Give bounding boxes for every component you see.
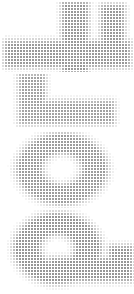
halftone-dot xyxy=(31,168,33,170)
halftone-dot xyxy=(46,282,48,284)
halftone-dot xyxy=(86,68,88,70)
halftone-dot xyxy=(11,53,13,55)
halftone-dot xyxy=(107,56,109,58)
halftone-dot xyxy=(37,122,39,124)
halftone-dot xyxy=(91,198,93,200)
halftone-dot xyxy=(85,180,87,182)
halftone-dot xyxy=(73,110,75,112)
halftone-dot xyxy=(112,119,114,121)
halftone-dot xyxy=(119,11,121,13)
halftone-dot xyxy=(43,159,45,161)
halftone-dot xyxy=(133,255,134,257)
halftone-dot xyxy=(89,35,91,37)
halftone-dot xyxy=(122,38,124,40)
halftone-dot xyxy=(49,204,51,206)
halftone-dot xyxy=(55,195,57,197)
halftone-dot xyxy=(52,201,54,203)
halftone-dot xyxy=(124,240,126,242)
halftone-dot xyxy=(34,213,36,215)
halftone-dot xyxy=(112,113,114,115)
halftone-dot xyxy=(70,258,72,260)
halftone-dot xyxy=(34,222,36,224)
halftone-dot xyxy=(64,219,66,221)
halftone-dot xyxy=(124,252,126,254)
halftone-dot xyxy=(34,249,36,251)
halftone-dot xyxy=(88,201,90,203)
halftone-dot xyxy=(40,204,42,206)
halftone-dot xyxy=(22,159,24,161)
halftone-dot xyxy=(68,11,70,13)
halftone-dot xyxy=(82,276,84,278)
halftone-dot xyxy=(13,168,15,170)
halftone-dot xyxy=(76,267,78,269)
halftone-dot xyxy=(79,104,81,106)
halftone-dot xyxy=(61,101,63,103)
halftone-dot xyxy=(104,32,106,34)
halftone-dot xyxy=(89,5,91,7)
halftone-dot xyxy=(29,68,31,70)
halftone-dot xyxy=(125,2,127,4)
halftone-dot xyxy=(28,246,30,248)
halftone-dot xyxy=(73,231,75,233)
halftone-dot xyxy=(61,276,63,278)
halftone-dot xyxy=(13,240,15,242)
halftone-dot xyxy=(73,180,75,182)
halftone-dot xyxy=(16,171,18,173)
halftone-dot xyxy=(55,116,57,118)
halftone-dot xyxy=(106,110,108,112)
halftone-dot xyxy=(91,147,93,149)
halftone-dot xyxy=(70,186,72,188)
halftone-dot xyxy=(43,153,45,155)
halftone-dot xyxy=(55,285,57,287)
halftone-dot xyxy=(16,165,18,167)
halftone-dot xyxy=(106,237,108,239)
halftone-dot xyxy=(28,255,30,257)
halftone-dot xyxy=(73,282,75,284)
halftone-dot xyxy=(29,65,31,67)
halftone-dot xyxy=(61,273,63,275)
halftone-dot xyxy=(25,95,27,97)
halftone-dot xyxy=(41,65,43,67)
halftone-dot xyxy=(113,53,115,55)
halftone-dot xyxy=(16,125,18,127)
halftone-dot xyxy=(11,59,13,61)
halftone-dot xyxy=(83,14,85,16)
halftone-dot xyxy=(106,189,108,191)
halftone-dot xyxy=(19,240,21,242)
halftone-dot xyxy=(112,252,114,254)
halftone-dot xyxy=(40,279,42,281)
halftone-dot xyxy=(86,26,88,28)
halftone-dot xyxy=(16,159,18,161)
halftone-dot xyxy=(16,228,18,230)
halftone-dot xyxy=(92,68,94,70)
halftone-dot xyxy=(25,171,27,173)
halftone-dot xyxy=(82,138,84,140)
halftone-dot xyxy=(70,249,72,251)
halftone-dot xyxy=(10,249,12,251)
halftone-dot xyxy=(73,219,75,221)
halftone-dot xyxy=(28,107,30,109)
halftone-dot xyxy=(73,240,75,242)
halftone-dot xyxy=(62,44,64,46)
halftone-dot xyxy=(130,267,132,269)
halftone-dot xyxy=(44,41,46,43)
halftone-dot xyxy=(82,282,84,284)
halftone-dot xyxy=(110,20,112,22)
halftone-dot xyxy=(97,125,99,127)
halftone-dot xyxy=(16,240,18,242)
halftone-dot xyxy=(104,56,106,58)
halftone-dot xyxy=(95,47,97,49)
halftone-dot xyxy=(40,252,42,254)
halftone-dot xyxy=(91,177,93,179)
halftone-dot xyxy=(25,104,27,106)
halftone-dot xyxy=(13,180,15,182)
halftone-dot xyxy=(62,38,64,40)
halftone-dot xyxy=(130,249,132,251)
halftone-dot xyxy=(97,246,99,248)
halftone-dot xyxy=(55,258,57,260)
halftone-dot xyxy=(118,122,120,124)
halftone-dot xyxy=(29,41,31,43)
halftone-dot xyxy=(43,95,45,97)
halftone-dot xyxy=(88,150,90,152)
halftone-dot xyxy=(40,249,42,251)
